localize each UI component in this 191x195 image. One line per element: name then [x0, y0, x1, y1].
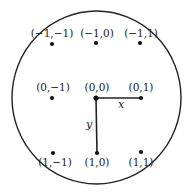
grid-point: (1,1): [129, 150, 154, 168]
point-dot: [95, 151, 99, 155]
point-dot: [50, 96, 54, 100]
point-label: (−1,1): [124, 27, 158, 39]
point-dot: [139, 96, 143, 100]
point-dot: [139, 150, 143, 154]
point-label: (1,−1): [38, 156, 72, 168]
grid-point: (1,−1): [38, 151, 72, 168]
point-dot: [93, 95, 98, 100]
x-axis-label: x: [118, 98, 125, 111]
point-label: (−1,0): [80, 27, 114, 39]
grid-diagram: x y (−1,−1)(−1,0)(−1,1)(0,−1)(0,0)(0,1)(…: [0, 0, 191, 195]
point-label: (0,1): [129, 81, 154, 93]
point-label: (1,0): [85, 156, 110, 168]
y-axis-line: [96, 98, 97, 153]
point-label: (0,0): [85, 81, 110, 93]
point-dot: [138, 41, 142, 45]
grid-point: (1,0): [85, 151, 110, 168]
grid-point: (−1,0): [80, 27, 114, 45]
y-axis-label: y: [85, 118, 93, 131]
point-dot: [51, 151, 55, 155]
point-dot: [50, 42, 54, 46]
grid-point: (−1,1): [124, 27, 158, 45]
point-label: (0,−1): [36, 81, 70, 93]
point-label: (−1,−1): [31, 27, 74, 39]
point-label: (1,1): [129, 156, 154, 168]
grid-point: (0,−1): [36, 81, 70, 100]
grid-point: (−1,−1): [31, 27, 74, 46]
point-dot: [94, 41, 98, 45]
